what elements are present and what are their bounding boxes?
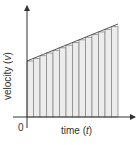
- strip: [92, 35, 99, 117]
- strip: [60, 48, 67, 117]
- strip: [47, 53, 54, 117]
- y-axis-label: velocity (v): [3, 52, 13, 100]
- strip: [73, 43, 80, 118]
- strip: [34, 58, 41, 117]
- strip: [105, 29, 112, 117]
- strip: [86, 37, 93, 117]
- strip: [99, 32, 106, 117]
- strip: [40, 56, 47, 117]
- strip: [79, 40, 86, 117]
- x-axis-label: time (t): [61, 126, 92, 136]
- strip: [27, 61, 34, 117]
- origin-label: 0: [18, 123, 24, 133]
- strip: [66, 45, 73, 117]
- riemann-strips: [27, 27, 118, 117]
- strip: [112, 27, 119, 117]
- strip: [53, 50, 60, 117]
